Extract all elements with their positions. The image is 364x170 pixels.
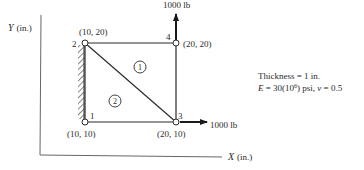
node-3-coord: (20, 10): [157, 129, 186, 139]
node-4: 4 (20, 20): [166, 32, 212, 49]
node-2-coord: (10, 20): [79, 27, 108, 37]
node-3-id: 3: [178, 111, 183, 121]
node-4-coord: (20, 20): [183, 39, 212, 49]
mesh-edges: [85, 43, 176, 122]
y-axis: [40, 15, 41, 155]
node-4-id: 4: [166, 32, 171, 42]
edge-2-3-diagonal: [85, 43, 176, 122]
node-1-id: 1: [90, 111, 95, 121]
element-1-label: 1: [134, 61, 146, 73]
thickness-label: Thickness = 1 in.: [258, 71, 320, 81]
node-2: 2 (10, 20): [72, 27, 108, 49]
element-2-label: 2: [109, 95, 121, 107]
fe-diagram: Y(in.) X(in.) 1000 lb 1000 lb: [0, 0, 364, 170]
node-1-coord: (10, 10): [67, 129, 96, 139]
node-3: 3 (20, 10): [157, 111, 186, 139]
y-axis-label: Y(in.): [8, 22, 32, 33]
node-2-id: 2: [72, 39, 77, 49]
x-axis-label: X(in.): [227, 151, 252, 162]
horizontal-load-label: 1000 lb: [210, 120, 238, 130]
diagram-svg: Y(in.) X(in.) 1000 lb 1000 lb: [0, 0, 364, 170]
svg-text:2: 2: [113, 97, 117, 106]
vertical-load-label: 1000 lb: [163, 0, 191, 10]
x-axis: [40, 155, 222, 157]
material-properties-label: E = 30(106) psi, ν = 0.5: [257, 83, 343, 93]
fixed-support-hatch: [78, 43, 84, 122]
svg-text:1: 1: [138, 63, 142, 72]
